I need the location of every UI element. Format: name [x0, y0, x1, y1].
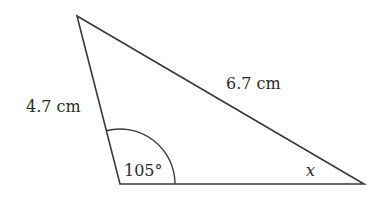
side-label-left: 4.7 cm: [26, 99, 81, 115]
triangle-outline: [77, 16, 364, 184]
angle-label-105: 105°: [124, 163, 163, 179]
triangle-diagram: 4.7 cm 6.7 cm 105° x: [0, 0, 378, 200]
angle-label-x: x: [306, 163, 315, 179]
side-label-hypotenuse: 6.7 cm: [226, 76, 281, 92]
